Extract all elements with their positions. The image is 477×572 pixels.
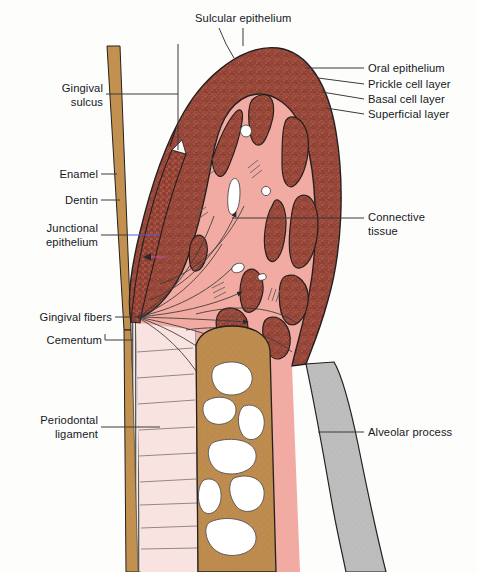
label-enamel: Enamel bbox=[0, 168, 98, 182]
label-connective-tissue: Connective tissue bbox=[368, 211, 425, 238]
label-periodontal-ligament: Periodontal ligament bbox=[0, 414, 98, 441]
label-dentin: Dentin bbox=[0, 194, 98, 208]
label-prickle-cell-layer: Prickle cell layer bbox=[368, 78, 451, 92]
label-superficial-layer: Superficial layer bbox=[368, 108, 449, 122]
label-cementum: Cementum bbox=[0, 334, 102, 348]
label-oral-epithelium: Oral epithelium bbox=[368, 62, 445, 76]
label-sulcular-epithelium: Sulcular epithelium bbox=[195, 12, 291, 26]
periodontal-ligament-space bbox=[136, 322, 198, 572]
alveolar-bone-septum bbox=[196, 326, 276, 572]
pdl-fill bbox=[136, 322, 198, 572]
label-gingival-fibers: Gingival fibers bbox=[0, 311, 112, 325]
label-alveolar-process: Alveolar process bbox=[368, 426, 452, 440]
label-basal-cell-layer: Basal cell layer bbox=[368, 93, 445, 107]
label-gingival-sulcus: Gingival sulcus bbox=[0, 82, 103, 109]
label-junctional-epithelium: Junctional epithelium bbox=[0, 222, 98, 249]
